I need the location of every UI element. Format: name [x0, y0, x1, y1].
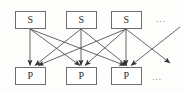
edge-s3-p1 — [38, 29, 126, 66]
bipartite-diagram: S S S ... P P P ... — [0, 0, 184, 91]
node-s1[interactable]: S — [15, 11, 46, 29]
node-p2-label: P — [79, 71, 85, 81]
node-s2[interactable]: S — [66, 11, 97, 29]
node-s3-label: S — [124, 15, 130, 25]
edge-more-sources-p3 — [131, 27, 180, 66]
edge-s1-p2 — [30, 29, 80, 66]
node-s2-label: S — [79, 15, 85, 25]
edge-s2-p1 — [35, 29, 81, 66]
node-p3-label: P — [124, 71, 130, 81]
bottom-row-ellipsis: ... — [152, 72, 162, 82]
node-s3[interactable]: S — [111, 11, 142, 29]
node-s1-label: S — [28, 15, 34, 25]
edge-s3-to-more-targets — [126, 29, 170, 63]
top-row-ellipsis: ... — [156, 14, 166, 24]
node-p2[interactable]: P — [66, 67, 97, 85]
node-p1-label: P — [28, 71, 34, 81]
node-p1[interactable]: P — [15, 67, 46, 85]
edge-s1-p3 — [30, 29, 125, 66]
node-p3[interactable]: P — [111, 67, 142, 85]
